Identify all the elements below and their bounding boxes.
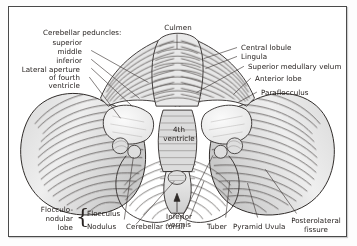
label-cerebellar-peduncles-heading: Cerebellar peduncles:: [43, 29, 122, 37]
label-tuber: Tuber: [207, 223, 227, 231]
label-uvula: Uvula: [265, 223, 285, 231]
label-fourth-ventricle-line2: ventricle: [155, 135, 203, 143]
label-culmen: Culmen: [157, 24, 199, 32]
label-nodulus: Nodulus: [87, 223, 116, 231]
figure-frame: Cerebellar peduncles: superior middle in…: [8, 6, 347, 237]
label-cerebellar-tonsil: Cerebellar tonsil: [126, 223, 185, 231]
label-lateral-aperture-line3: ventricle: [9, 82, 80, 90]
label-anterior-lobe: Anterior lobe: [255, 75, 302, 83]
label-posterolateral-line2: fissure: [288, 226, 344, 234]
label-lingula: Lingula: [241, 53, 267, 61]
label-superior-medullary-velum: Superior medullary velum: [248, 63, 341, 71]
label-pyramid: Pyramid: [233, 223, 262, 231]
figure-root: Cerebellar peduncles: superior middle in…: [0, 0, 357, 246]
label-flocculonodular-line3: lobe: [15, 224, 73, 232]
label-paraflocculus: Paraflocculus: [261, 89, 309, 97]
label-flocculus: Flocculus: [87, 210, 120, 218]
